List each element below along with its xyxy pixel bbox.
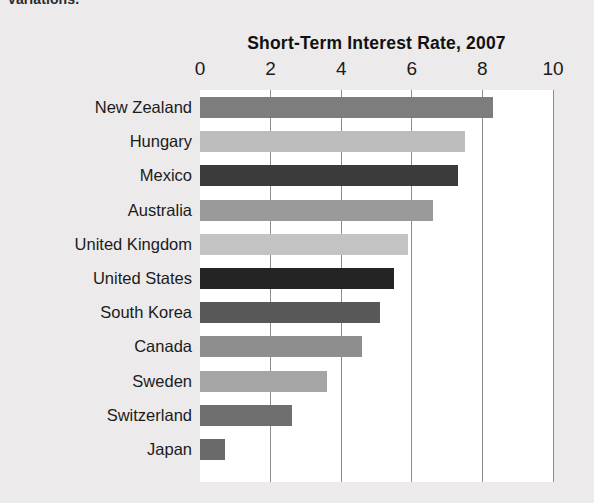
category-label-south-korea: South Korea — [0, 302, 192, 323]
bars-layer — [200, 90, 553, 482]
category-axis-labels: New ZealandHungaryMexicoAustraliaUnited … — [0, 90, 192, 482]
bar-australia — [200, 200, 433, 221]
category-label-new-zealand: New Zealand — [0, 97, 192, 118]
category-label-canada: Canada — [0, 336, 192, 357]
category-label-united-states: United States — [0, 268, 192, 289]
bar-south-korea — [200, 302, 380, 323]
bar-new-zealand — [200, 97, 493, 118]
chart-figure: Short-Term Interest Rate, 2007 0246810 N… — [0, 0, 594, 503]
bar-sweden — [200, 371, 327, 392]
category-label-hungary: Hungary — [0, 131, 192, 152]
bar-canada — [200, 336, 362, 357]
category-label-united-kingdom: United Kingdom — [0, 234, 192, 255]
bar-mexico — [200, 165, 458, 186]
category-label-japan: Japan — [0, 439, 192, 460]
category-label-sweden: Sweden — [0, 371, 192, 392]
x-tick-label-2: 2 — [265, 58, 276, 80]
bar-hungary — [200, 131, 465, 152]
x-axis-tick-labels: 0246810 — [0, 58, 594, 86]
x-tick-label-6: 6 — [407, 58, 418, 80]
category-label-australia: Australia — [0, 200, 192, 221]
bar-united-kingdom — [200, 234, 408, 255]
bar-japan — [200, 439, 225, 460]
category-label-mexico: Mexico — [0, 165, 192, 186]
chart-title: Short-Term Interest Rate, 2007 — [200, 33, 553, 54]
x-tick-label-4: 4 — [336, 58, 347, 80]
category-label-switzerland: Switzerland — [0, 405, 192, 426]
x-tick-label-8: 8 — [477, 58, 488, 80]
x-tick-label-10: 10 — [542, 58, 563, 80]
bar-switzerland — [200, 405, 292, 426]
bar-united-states — [200, 268, 394, 289]
x-tick-label-0: 0 — [195, 58, 206, 80]
